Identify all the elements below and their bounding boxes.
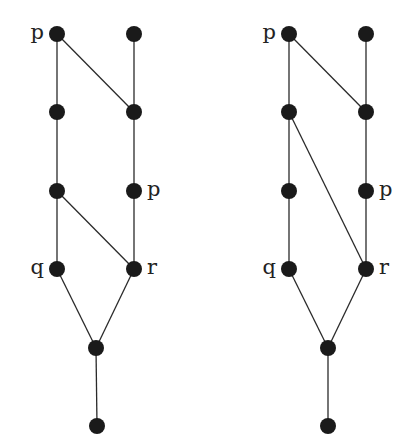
node-e xyxy=(281,183,297,199)
node-label: r xyxy=(147,255,158,279)
node-h xyxy=(126,261,142,277)
node-j xyxy=(89,418,105,434)
node-a xyxy=(49,26,65,42)
node-g xyxy=(49,261,65,277)
node-f xyxy=(358,183,374,199)
edge-h-i xyxy=(96,269,134,348)
node-label: p xyxy=(147,177,160,201)
node-c xyxy=(49,104,65,120)
edge-e-h xyxy=(57,191,134,269)
node-d xyxy=(126,104,142,120)
edge-a-d xyxy=(289,34,366,112)
node-b xyxy=(358,26,374,42)
node-g xyxy=(281,261,297,277)
node-label: r xyxy=(379,255,390,279)
right-lattice: ppqr xyxy=(263,20,393,434)
edge-a-d xyxy=(57,34,134,112)
node-f xyxy=(126,183,142,199)
node-label: p xyxy=(379,177,392,201)
node-label: p xyxy=(31,20,44,44)
node-i xyxy=(320,340,336,356)
node-e xyxy=(49,183,65,199)
node-h xyxy=(358,261,374,277)
edge-h-i xyxy=(328,269,366,348)
edge-c-h xyxy=(289,112,366,269)
edge-i-j xyxy=(96,348,97,426)
edge-g-i xyxy=(289,269,328,348)
lattice-diagrams: ppqrppqr xyxy=(0,0,415,446)
node-b xyxy=(126,26,142,42)
edge-g-i xyxy=(57,269,96,348)
node-i xyxy=(88,340,104,356)
node-d xyxy=(358,104,374,120)
node-label: p xyxy=(263,20,276,44)
node-label: q xyxy=(263,255,276,279)
node-j xyxy=(320,418,336,434)
node-a xyxy=(281,26,297,42)
node-label: q xyxy=(31,255,44,279)
left-lattice: ppqr xyxy=(31,20,161,434)
node-c xyxy=(281,104,297,120)
